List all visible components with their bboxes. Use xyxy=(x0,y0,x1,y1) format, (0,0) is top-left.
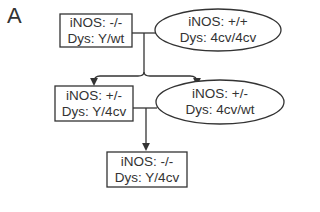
genotype-dys: Dys: 4cv/wt xyxy=(185,102,254,118)
genotype-dys: Dys: 4cv/4cv xyxy=(180,30,257,46)
genotype-inos: iNOS: +/- xyxy=(192,86,248,102)
node-parent-female: iNOS: +/+ Dys: 4cv/4cv xyxy=(155,9,281,51)
genotype-inos: iNOS: -/- xyxy=(121,154,174,170)
genotype-dys: Dys: Y/4cv xyxy=(115,170,179,186)
genotype-inos: iNOS: +/- xyxy=(66,88,122,104)
genotype-dys: Dys: Y/wt xyxy=(68,31,125,47)
node-f1-male: iNOS: +/- Dys: Y/4cv xyxy=(55,86,133,121)
node-f1-female: iNOS: +/- Dys: 4cv/wt xyxy=(156,80,284,124)
genotype-dys: Dys: Y/4cv xyxy=(62,104,126,120)
node-f2-male: iNOS: -/- Dys: Y/4cv xyxy=(107,152,187,187)
genotype-inos: iNOS: +/+ xyxy=(188,14,247,30)
node-parent-male: iNOS: -/- Dys: Y/wt xyxy=(60,14,132,47)
offspring-brace xyxy=(94,72,144,82)
genotype-inos: iNOS: -/- xyxy=(70,15,123,31)
